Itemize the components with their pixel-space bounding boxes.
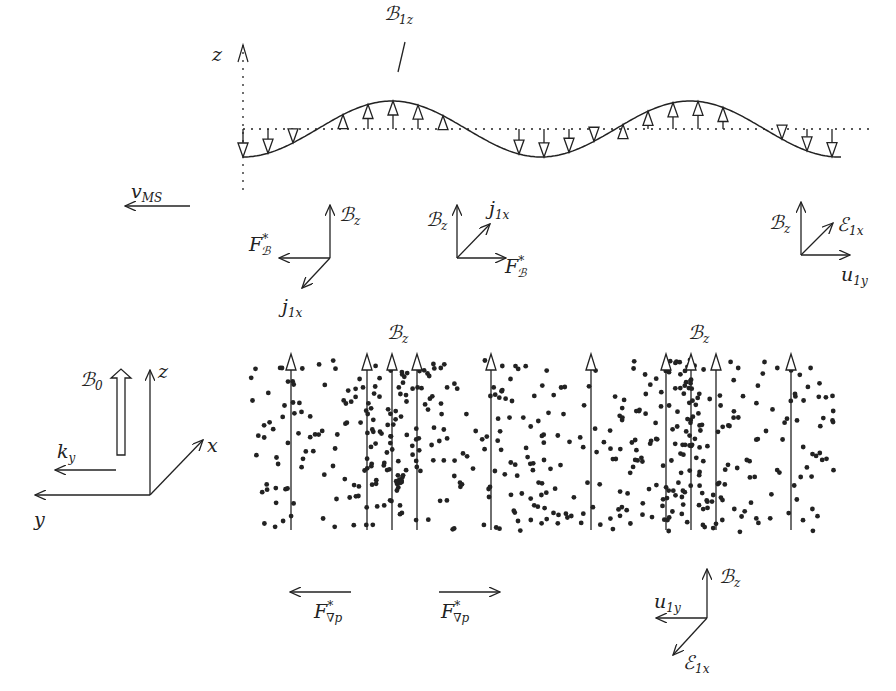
plasma-particle [465,454,470,459]
plasma-particle [274,500,279,505]
u1y-label-triad3: u1y [841,265,868,287]
plasma-particle [680,495,685,500]
plasma-particle [556,513,561,518]
plasma-particle [452,474,457,479]
plasma-particle [816,394,821,399]
plasma-particle [613,394,618,399]
plasma-particle [815,514,820,519]
plasma-particle [831,420,836,425]
plasma-particle [515,473,520,478]
plasma-particle [303,449,308,454]
plasma-particle [684,429,689,434]
plasma-particle [702,525,707,530]
plasma-particle [704,498,709,503]
plasma-particle [639,455,644,460]
plasma-particle [820,458,825,463]
plasma-particle [265,487,270,492]
plasma-particle [508,460,513,465]
plasma-particle [445,498,450,503]
j1x-label-triad1: j1x [282,297,302,319]
plasma-particle [342,477,347,482]
plasma-particle [541,440,546,445]
plasma-particle [622,398,627,403]
arrow-down-hollow-icon [539,143,549,157]
plasma-particle [634,409,639,414]
plasma-particle [700,491,705,496]
plasma-particle [660,504,665,509]
plasma-particle [675,424,680,429]
plasma-particle [697,391,702,396]
plasma-particle [333,366,338,371]
plasma-particle [262,521,267,526]
plasma-particle [482,523,487,528]
plasma-particle [551,511,556,516]
plasma-particle [347,495,352,500]
plasma-particle [693,436,698,441]
plasma-particle [273,486,278,491]
plasma-particle [320,429,325,434]
plasma-particle [555,521,560,526]
plasma-particle [331,358,336,363]
ky-label: ky [57,442,75,464]
plasma-particle [385,423,390,428]
plasma-particle [539,493,544,498]
plasma-particle [643,372,648,377]
plasma-particle [677,360,682,365]
plasma-particle [404,393,409,398]
field-line-head-icon [786,354,796,370]
plasma-particle [738,529,743,534]
plasma-particle [707,397,712,402]
plasma-particle [678,386,683,391]
plasma-particle [356,494,361,499]
plasma-particle [500,364,505,369]
b0-label: ℬ0 [80,370,103,392]
arrow-up-hollow-icon [363,105,373,119]
plasma-particle [831,468,836,473]
plasma-particle [300,366,305,371]
plasma-particle [597,482,602,487]
plasma-particle [382,503,387,508]
arrow-down-hollow-icon [564,138,574,152]
j1x-label-triad2: j1x [489,199,509,221]
plasma-particle [264,482,269,487]
plasma-particle [608,516,613,521]
plasma-particle [666,529,671,534]
plasma-particle [769,492,774,497]
plasma-particle [461,451,466,456]
plasma-particle [693,402,698,407]
plasma-particle [810,452,815,457]
plasma-particle [375,504,380,509]
plasma-particle [824,456,829,461]
plasma-particle [585,480,590,485]
arrow-down-hollow-icon [827,143,837,157]
plasma-particle [731,415,736,420]
plasma-particle [510,399,515,404]
plasma-particle [523,364,528,369]
plasma-particle [532,503,537,508]
plasma-particle [541,432,546,437]
plasma-particle [618,447,623,452]
plasma-particle [782,420,787,425]
plasma-particle [262,423,267,428]
plasma-particle [432,425,437,430]
plasma-particle [681,452,686,457]
plasma-particle [516,519,521,524]
plasma-particle [736,366,741,371]
plasma-particle [431,362,436,367]
plasma-particle [410,452,415,457]
plasma-particle [749,500,754,505]
plasma-particle [594,450,599,455]
plasma-particle [797,372,802,377]
plasma-particle [711,493,716,498]
plasma-particle [540,383,545,388]
x-axis-label: x [207,436,218,455]
plasma-particle [754,516,759,521]
plasma-particle [768,516,773,521]
plasma-particle [681,391,686,396]
plasma-particle [396,473,401,478]
plasma-particle [518,528,523,533]
plasma-particle [617,413,622,418]
plasma-particle [370,522,375,527]
triad1-j1x-arrow [302,258,330,288]
plasma-particle [333,446,338,451]
